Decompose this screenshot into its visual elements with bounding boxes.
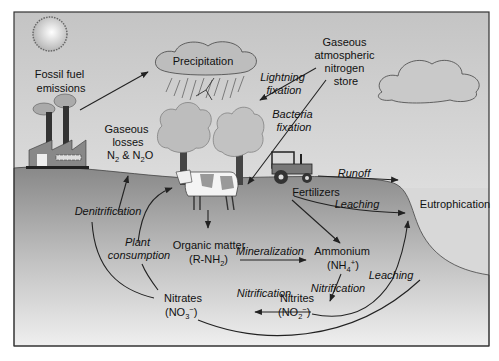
denitrification-label: Denitrification [75,205,142,217]
nitrification-label-ammonium: Nitrification [311,282,365,294]
precipitation-label: Precipitation [173,55,234,67]
bacteria-fixation-label: Bacteria fixation [272,108,315,133]
ammonium-label: Ammonium [314,245,370,257]
organic-matter-label: Organic matter [173,239,246,251]
fertilizers-label: Fertilizers [292,186,340,198]
sun-icon [33,17,67,51]
leaching-label-bottom: Leaching [369,269,415,281]
leaching-label-top: Leaching [335,198,381,210]
lightning-fixation-label: Lightning fixation [260,71,308,96]
nitrogen-cycle-diagram: Fossil fuel emissions Precipitation Gase… [0,0,499,361]
eutrophication-label: Eutrophication [420,198,490,210]
mineralization-label: Mineralization [236,245,304,257]
runoff-label: Runoff [338,167,371,179]
nitrates-label: Nitrates [164,292,202,304]
nitrites-label: Nitrites [280,292,315,304]
